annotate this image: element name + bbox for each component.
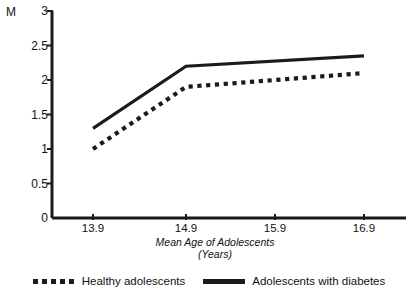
legend-entry: Healthy adolescents <box>33 275 186 288</box>
legend-label: Healthy adolescents <box>82 275 186 288</box>
x-axis-title-line1: Mean Age of Adolescents <box>156 236 275 248</box>
y-tick-label: 1.5 <box>14 109 48 121</box>
x-tick-label: 16.9 <box>353 222 375 235</box>
series-line-adolescents-with-diabetes <box>93 56 364 129</box>
series-line-healthy-adolescents <box>93 73 364 149</box>
chart-legend: Healthy adolescentsAdolescents with diab… <box>0 271 418 291</box>
plot-area: M 32.521.510.50 <box>0 0 418 232</box>
legend-label: Adolescents with diabetes <box>252 275 385 288</box>
x-axis-title: Mean Age of Adolescents (Years) <box>50 236 380 260</box>
x-axis-title-line2: (Years) <box>50 248 380 260</box>
y-tick-label: 1 <box>14 143 48 155</box>
y-tick-label: 3 <box>14 5 48 17</box>
plot-svg <box>0 0 418 232</box>
legend-entry: Adolescents with diabetes <box>203 275 385 288</box>
legend-dotted-line-icon <box>33 279 75 284</box>
y-tick-label: 0.5 <box>14 178 48 190</box>
y-tick-label: 2.5 <box>14 40 48 52</box>
y-tick-label: 2 <box>14 74 48 86</box>
line-chart: M 32.521.510.50 13.914.915.916.9 Mean Ag… <box>0 0 418 295</box>
x-tick-label: 13.9 <box>82 222 104 235</box>
x-tick-label: 14.9 <box>175 222 197 235</box>
y-axis-tick-labels: 32.521.510.50 <box>10 0 48 232</box>
legend-solid-line-icon <box>203 279 245 284</box>
x-tick-label: 15.9 <box>264 222 286 235</box>
